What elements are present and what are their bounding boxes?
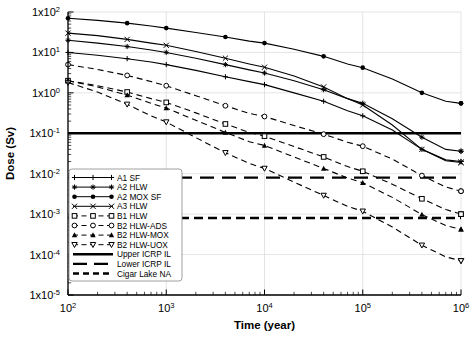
series-b2-hlw-ads-marker xyxy=(360,144,365,149)
series-b2-hlw-ads-marker xyxy=(125,73,130,78)
legend-label-a2-mox-sf: A2 MOX SF xyxy=(117,192,161,202)
legend-marker xyxy=(109,194,114,199)
series-b2-hlw-ads-marker xyxy=(262,114,267,119)
series-b2-hlw-ads-marker xyxy=(459,189,464,194)
series-b2-hlw-ads-marker xyxy=(164,83,169,88)
legend-marker xyxy=(109,214,114,219)
series-b1-hlw-marker xyxy=(164,100,169,105)
dose-vs-time-chart: 1021031041051061x1021x1011x1001x10-11x10… xyxy=(0,0,475,337)
series-a2-mox-sf-marker xyxy=(360,65,365,70)
yaxis-tick-label: 1x102 xyxy=(32,5,60,19)
legend-label-b1-hlw: B1 HLW xyxy=(117,211,147,221)
chart-container: 1021031041051061x1021x1011x1001x10-11x10… xyxy=(0,0,475,337)
yaxis-tick-label: 1x100 xyxy=(32,85,60,99)
series-a2-mox-sf-marker xyxy=(420,91,425,96)
legend-marker xyxy=(91,214,96,219)
legend-label-b2-hlw-mox: B2 HLW-MOX xyxy=(117,230,169,240)
series-a2-mox-sf-marker xyxy=(223,35,228,40)
legend-marker xyxy=(91,194,96,199)
x-axis-title: Time (year) xyxy=(234,319,295,331)
series-b1-hlw-marker xyxy=(262,134,267,139)
legend-label-a3-hlw: A3 HLW xyxy=(117,201,147,211)
legend-marker xyxy=(72,194,77,199)
series-b1-hlw-marker xyxy=(223,122,228,127)
series-a2-mox-sf-marker xyxy=(459,101,464,106)
legend-label-lower-icrp-il: Lower ICRP IL xyxy=(117,259,171,269)
series-a2-mox-sf-marker xyxy=(164,26,169,31)
series-b2-hlw-ads-marker xyxy=(223,103,228,108)
yaxis-tick-label: 1x101 xyxy=(32,45,60,59)
series-b2-hlw-ads-marker xyxy=(321,132,326,137)
legend-label-upper-icrp-il: Upper ICRP IL xyxy=(117,249,171,259)
legend-label-a1-sf: A1 SF xyxy=(117,173,140,183)
chart-background xyxy=(0,0,475,337)
series-b1-hlw-marker xyxy=(420,196,425,201)
legend-label-cigar-lake-na: Cigar Lake NA xyxy=(117,269,171,279)
series-a2-mox-sf-marker xyxy=(321,54,326,59)
series-b1-hlw-marker xyxy=(321,155,326,160)
legend-marker xyxy=(72,214,77,219)
legend-marker xyxy=(109,223,114,228)
series-a2-mox-sf-marker xyxy=(262,41,267,46)
series-b2-hlw-ads-marker xyxy=(420,173,425,178)
y-axis-title: Dose (Sv) xyxy=(4,127,16,180)
series-a2-mox-sf-marker xyxy=(125,21,130,26)
legend-label-a2-hlw: A2 HLW xyxy=(117,182,147,192)
legend-marker xyxy=(72,223,77,228)
series-b1-hlw-marker xyxy=(459,212,464,217)
legend-marker xyxy=(91,223,96,228)
legend-label-b2-hlw-ads: B2 HLW-ADS xyxy=(117,221,167,231)
legend-label-b2-hlw-uox: B2 HLW-UOX xyxy=(117,240,168,250)
series-b1-hlw-marker xyxy=(360,169,365,174)
